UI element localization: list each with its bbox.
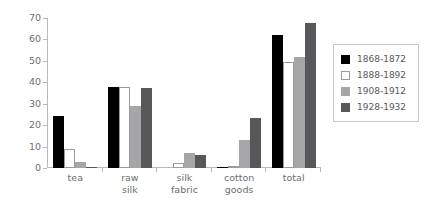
y-tick-label: 30 <box>29 99 41 109</box>
x-axis-label: cottongoods <box>212 172 267 196</box>
bars <box>217 18 261 168</box>
x-axis-label: silkfabric <box>157 172 212 196</box>
chart-legend: 1868-18721888-18921908-19121928-1932 <box>333 44 419 122</box>
bars <box>108 18 152 168</box>
bar <box>53 116 64 169</box>
x-axis-label-line: silk <box>103 184 158 196</box>
bar <box>173 163 184 168</box>
bar-group <box>266 18 321 168</box>
x-axis-label-line: tea <box>48 172 103 184</box>
bar <box>294 57 305 168</box>
bar <box>75 162 86 168</box>
legend-swatch <box>341 103 350 112</box>
bars <box>272 18 316 168</box>
bar <box>228 166 239 168</box>
x-axis-label: tea <box>48 172 103 196</box>
bar-group <box>157 18 212 168</box>
bar <box>119 87 130 168</box>
x-axis-label-line: fabric <box>157 184 212 196</box>
plot-area: 010203040506070 <box>47 18 321 168</box>
y-tick-label: 0 <box>35 163 41 173</box>
legend-item: 1908-1912 <box>341 83 412 99</box>
y-tick-mark <box>43 147 47 148</box>
y-tick-label: 70 <box>29 13 41 23</box>
bar <box>64 149 75 168</box>
y-tick-label: 40 <box>29 78 41 88</box>
legend-swatch <box>341 87 350 96</box>
y-tick-mark <box>43 168 47 169</box>
bar <box>130 106 141 168</box>
y-tick-mark <box>43 39 47 40</box>
bar-group <box>103 18 158 168</box>
legend-item: 1868-1872 <box>341 51 412 67</box>
bar-group <box>212 18 267 168</box>
bar-group <box>48 18 103 168</box>
x-axis-labels: tearawsilksilkfabriccottongoodstotal <box>48 172 321 196</box>
y-tick-mark <box>43 18 47 19</box>
x-axis-label: rawsilk <box>103 172 158 196</box>
x-axis-label-line: raw <box>103 172 158 184</box>
x-axis-label: total <box>266 172 321 196</box>
y-tick-label: 10 <box>29 142 41 152</box>
bar <box>108 87 119 168</box>
y-tick-label: 60 <box>29 35 41 45</box>
bar <box>250 118 261 168</box>
bars <box>53 18 97 168</box>
bars <box>162 18 206 168</box>
legend-item: 1888-1892 <box>341 67 412 83</box>
legend-label: 1928-1932 <box>357 103 406 112</box>
legend-label: 1888-1892 <box>357 71 406 80</box>
y-tick-label: 50 <box>29 56 41 66</box>
y-tick-mark <box>43 125 47 126</box>
bar <box>184 153 195 168</box>
legend-swatch <box>341 55 350 64</box>
legend-item: 1928-1932 <box>341 99 412 115</box>
bar <box>272 35 283 168</box>
bar-chart: 010203040506070 tearawsilksilkfabriccott… <box>0 0 429 211</box>
legend-swatch <box>341 71 350 80</box>
x-axis-label-line: goods <box>212 184 267 196</box>
bar <box>86 167 97 168</box>
x-axis-label-line: total <box>266 172 321 184</box>
bar <box>239 140 250 168</box>
bar <box>141 88 152 168</box>
x-axis-label-line: silk <box>157 172 212 184</box>
bar <box>305 23 316 168</box>
bar <box>283 62 294 168</box>
bar <box>195 155 206 168</box>
y-tick-mark <box>43 82 47 83</box>
y-tick-label: 20 <box>29 120 41 130</box>
legend-label: 1868-1872 <box>357 55 406 64</box>
y-tick-mark <box>43 61 47 62</box>
x-axis-label-line: cotton <box>212 172 267 184</box>
legend-label: 1908-1912 <box>357 87 406 96</box>
y-tick-mark <box>43 104 47 105</box>
bar <box>217 167 228 168</box>
bar-groups <box>48 18 321 168</box>
